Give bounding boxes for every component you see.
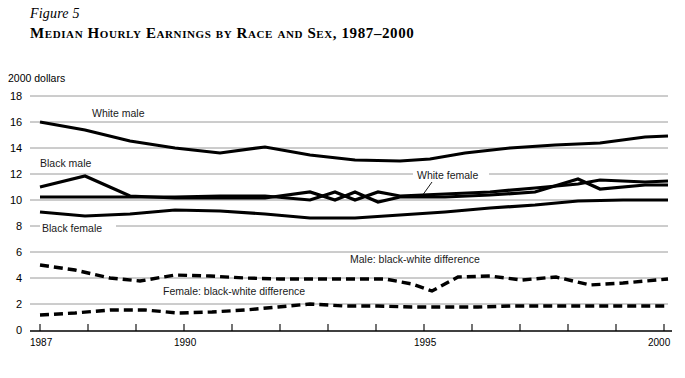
series-line-white-female bbox=[40, 180, 668, 200]
series-label-white-female: White female bbox=[417, 169, 478, 181]
series-label-white-male: White male bbox=[92, 107, 145, 119]
series-label-black-male: Black male bbox=[40, 157, 92, 169]
series-label-male-difference: Male: black-white difference bbox=[350, 253, 480, 265]
series-label-black-female: Black female bbox=[42, 222, 102, 234]
series-label-female-difference: Female: black-white difference bbox=[163, 285, 305, 297]
xtick-label-1987: 1987 bbox=[30, 337, 53, 348]
series-line-female-difference bbox=[40, 304, 668, 315]
xtick-label-1995: 1995 bbox=[414, 337, 437, 348]
figure-container: Figure 5 Median Hourly Earnings by Race … bbox=[0, 0, 685, 378]
ytick-label-12: 12 bbox=[10, 168, 22, 180]
ytick-label-6: 6 bbox=[16, 246, 22, 258]
ytick-label-18: 18 bbox=[10, 90, 22, 102]
series-line-black-female bbox=[40, 200, 668, 218]
ytick-label-4: 4 bbox=[16, 272, 22, 284]
y-axis-tick-labels: 18 16 14 12 10 8 6 4 2 0 bbox=[10, 90, 22, 336]
x-axis-tick-labels: 1987 1990 1995 2000 bbox=[30, 337, 671, 348]
series-group-solid bbox=[40, 122, 668, 218]
ytick-label-16: 16 bbox=[10, 116, 22, 128]
ytick-label-0: 0 bbox=[16, 324, 22, 336]
series-group-dashed bbox=[40, 265, 668, 315]
x-axis-ticks bbox=[40, 324, 664, 331]
ytick-label-10: 10 bbox=[10, 194, 22, 206]
ytick-label-8: 8 bbox=[16, 220, 22, 232]
series-line-white-male bbox=[40, 122, 668, 161]
chart-svg: 18 16 14 12 10 8 6 4 2 0 bbox=[0, 0, 685, 378]
ytick-label-14: 14 bbox=[10, 142, 22, 154]
ytick-label-2: 2 bbox=[16, 298, 22, 310]
xtick-label-2000: 2000 bbox=[648, 337, 671, 348]
xtick-label-1990: 1990 bbox=[174, 337, 197, 348]
